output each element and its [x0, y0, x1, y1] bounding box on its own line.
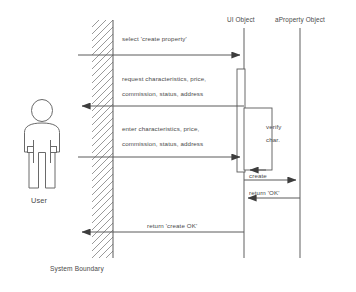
actor-person-icon — [25, 100, 60, 189]
message-label-select-create-property: select 'create property' — [122, 36, 187, 42]
system-boundary-icon — [92, 20, 113, 258]
message-label-request-characteristics-line2: commission, status, address — [122, 91, 203, 97]
message-label-enter-characteristics-line1: enter characteristics, price, — [122, 126, 199, 132]
actor-label-user: User — [31, 197, 47, 204]
message-label-return-ok: return 'OK' — [249, 190, 280, 196]
message-label-enter-characteristics-line2: commission, status, address — [122, 141, 203, 147]
lifeline-label-ui-object: UI Object — [227, 17, 255, 23]
message-label-return-create-ok: return 'create OK' — [147, 223, 197, 229]
message-label-create: create — [249, 173, 267, 179]
system-boundary-label: System Boundary — [50, 266, 104, 273]
message-label-request-characteristics-line1: request characteristics, price, — [122, 76, 206, 82]
sequence-diagram-canvas: UI Object aProperty Object User System B… — [0, 0, 356, 292]
message-label-verify: verify — [266, 124, 282, 130]
message-label-char: char. — [266, 137, 280, 143]
lifeline-label-aproperty-object: aProperty Object — [275, 17, 325, 23]
